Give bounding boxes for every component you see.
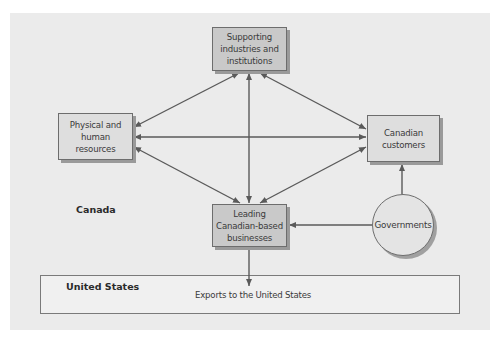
node-physical-human-resources: Physical and human resources bbox=[58, 113, 133, 160]
node-governments: Governments bbox=[372, 194, 434, 256]
node-leading-businesses: Leading Canadian-based businesses bbox=[212, 204, 287, 247]
edge-supporting-physical bbox=[134, 73, 239, 127]
edge-supporting-customers bbox=[260, 73, 366, 129]
node-supporting-industries: Supporting industries and institutions bbox=[212, 27, 287, 71]
exports-label: Exports to the United States bbox=[195, 290, 311, 300]
edge-customers-businesses bbox=[260, 147, 366, 203]
node-canadian-customers: Canadian customers bbox=[367, 115, 440, 162]
edge-physical-businesses bbox=[134, 147, 240, 203]
region-label-united-states: United States bbox=[66, 281, 139, 292]
region-label-canada: Canada bbox=[76, 204, 116, 215]
